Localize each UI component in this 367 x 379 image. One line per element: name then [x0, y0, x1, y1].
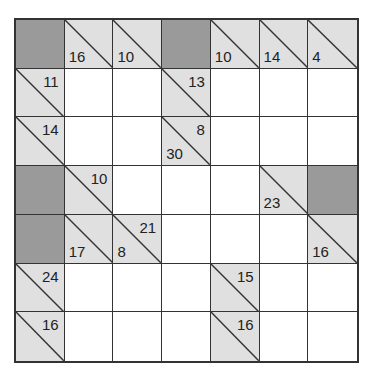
across-clue: 8: [197, 121, 205, 138]
entry-cell[interactable]: [211, 215, 260, 264]
down-clue: 8: [117, 243, 125, 260]
clue-cell: 10: [65, 166, 114, 215]
entry-cell[interactable]: [113, 264, 162, 313]
entry-cell[interactable]: [260, 215, 309, 264]
across-clue: 13: [188, 73, 205, 90]
entry-cell[interactable]: [211, 117, 260, 166]
across-clue: 10: [91, 170, 108, 187]
clue-cell: 14: [16, 117, 65, 166]
clue-cell: 24: [16, 264, 65, 313]
entry-cell[interactable]: [211, 69, 260, 118]
entry-cell[interactable]: [113, 117, 162, 166]
entry-cell[interactable]: [162, 166, 211, 215]
entry-cell[interactable]: [65, 117, 114, 166]
entry-cell[interactable]: [113, 166, 162, 215]
entry-cell[interactable]: [162, 215, 211, 264]
down-clue: 16: [312, 243, 329, 260]
across-clue: 14: [42, 121, 59, 138]
clue-cell: 11: [16, 69, 65, 118]
clue-cell: 16: [308, 215, 357, 264]
clue-cell: 17: [65, 215, 114, 264]
across-clue: 11: [43, 73, 59, 90]
clue-cell: 15: [211, 264, 260, 313]
entry-cell[interactable]: [308, 264, 357, 313]
entry-cell[interactable]: [65, 312, 114, 361]
clue-cell: 23: [260, 166, 309, 215]
across-clue: 24: [42, 268, 59, 285]
entry-cell[interactable]: [162, 312, 211, 361]
block-cell: [16, 166, 65, 215]
across-clue: 21: [139, 219, 156, 236]
block-cell: [16, 20, 65, 69]
clue-cell: 10: [113, 20, 162, 69]
down-clue: 30: [166, 145, 183, 162]
down-clue: 17: [69, 243, 86, 260]
entry-cell[interactable]: [211, 166, 260, 215]
down-clue: 14: [264, 48, 281, 65]
entry-cell[interactable]: [113, 312, 162, 361]
clue-cell: 10: [211, 20, 260, 69]
entry-cell[interactable]: [308, 69, 357, 118]
clue-cell: 13: [162, 69, 211, 118]
down-clue: 10: [215, 48, 232, 65]
clue-cell: 821: [113, 215, 162, 264]
clue-cell: 16: [16, 312, 65, 361]
clue-cell: 16: [65, 20, 114, 69]
block-cell: [16, 215, 65, 264]
entry-cell[interactable]: [113, 69, 162, 118]
clue-cell: 4: [308, 20, 357, 69]
entry-cell[interactable]: [308, 312, 357, 361]
entry-cell[interactable]: [260, 264, 309, 313]
entry-cell[interactable]: [260, 312, 309, 361]
block-cell: [162, 20, 211, 69]
down-clue: 23: [264, 194, 281, 211]
entry-cell[interactable]: [162, 264, 211, 313]
entry-cell[interactable]: [308, 117, 357, 166]
down-clue: 16: [69, 48, 86, 65]
down-clue: 10: [117, 48, 134, 65]
entry-cell[interactable]: [260, 69, 309, 118]
block-cell: [308, 166, 357, 215]
entry-cell[interactable]: [65, 264, 114, 313]
clue-cell: 308: [162, 117, 211, 166]
across-clue: 16: [42, 316, 59, 333]
entry-cell[interactable]: [260, 117, 309, 166]
down-clue: 4: [312, 48, 320, 65]
across-clue: 16: [237, 316, 254, 333]
entry-cell[interactable]: [65, 69, 114, 118]
across-clue: 15: [237, 268, 254, 285]
clue-cell: 16: [211, 312, 260, 361]
kakuro-board: 1610101441113143081023178211624151616: [14, 18, 359, 363]
clue-cell: 14: [260, 20, 309, 69]
